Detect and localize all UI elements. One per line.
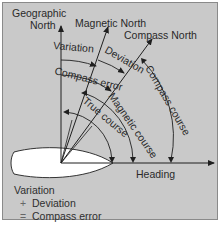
legend-compass-error: Compass error	[32, 210, 101, 223]
variation-arc	[61, 60, 96, 66]
legend-deviation: Deviation	[32, 197, 76, 210]
geographic-north-label-1: Geographic	[12, 7, 66, 19]
compass-north-line	[61, 39, 152, 163]
legend-variation: Variation	[14, 184, 55, 197]
variation-label: Variation	[53, 39, 95, 55]
compass-course-label: Compass course	[143, 63, 193, 137]
true-course-arrow-start	[63, 109, 69, 115]
legend: Variation +Deviation =Compass error	[14, 184, 101, 223]
magnetic-course-arrow-end	[130, 157, 136, 163]
geographic-north-label-2: North	[30, 19, 56, 31]
deviation-label: Deviation	[103, 43, 147, 75]
legend-equals: =	[14, 210, 32, 223]
magnetic-north-label: Magnetic North	[75, 17, 146, 29]
compass-course-arrow-end	[168, 157, 174, 163]
compass-error-label: Compass error	[54, 64, 125, 93]
heading-label: Heading	[136, 168, 175, 180]
compass-north-label: Compass North	[124, 29, 197, 41]
legend-plus: +	[14, 197, 32, 210]
